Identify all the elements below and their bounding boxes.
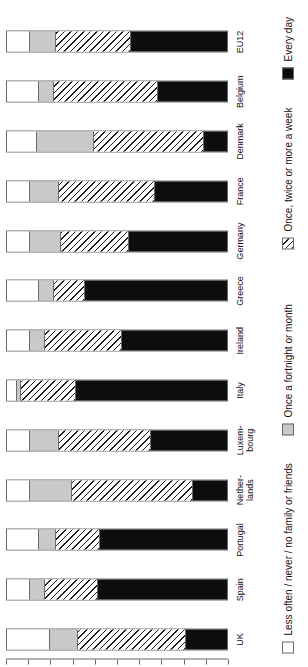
legend-item[interactable]: Once, twice or more a week xyxy=(282,107,294,249)
legend-label: Every day xyxy=(283,17,294,61)
chart-legend: Less often / never / no family or friend… xyxy=(0,0,308,667)
legend-label: Less often / never / no family or friend… xyxy=(283,463,294,635)
legend-label: Once, twice or more a week xyxy=(283,107,294,231)
legend-item[interactable]: Less often / never / no family or friend… xyxy=(282,463,294,653)
legend-item[interactable]: Once a fortnight or month xyxy=(282,304,294,435)
white-swatch xyxy=(282,641,294,653)
legend-item[interactable]: Every day xyxy=(282,17,294,79)
gray-swatch xyxy=(282,423,294,435)
hatched-swatch xyxy=(282,237,294,249)
rotated-chart-stage: 100%90%80%70%60%50%40%30%20%10%0% UKSpai… xyxy=(0,0,308,667)
legend-label: Once a fortnight or month xyxy=(283,304,294,417)
black-swatch xyxy=(282,67,294,79)
